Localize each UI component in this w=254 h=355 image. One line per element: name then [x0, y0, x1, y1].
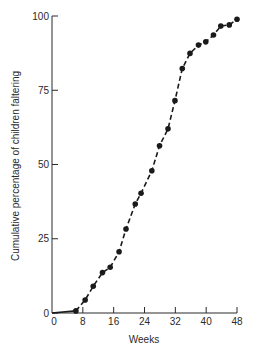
data-point-marker [234, 16, 240, 22]
x-tick-label: 0 [51, 316, 57, 327]
data-point-marker [132, 201, 138, 207]
data-point-marker [226, 22, 232, 28]
axes [52, 16, 237, 313]
series-dashed-line [76, 19, 237, 311]
data-point-marker [211, 32, 217, 38]
data-point-marker [157, 143, 163, 149]
data-point-marker [116, 249, 122, 255]
data-point-marker [196, 42, 202, 48]
data-point-marker [218, 23, 224, 29]
y-tick-label: 0 [43, 308, 49, 319]
x-tick-label: 40 [201, 316, 213, 327]
y-tick-label: 75 [38, 85, 50, 96]
data-point-marker [123, 226, 129, 232]
x-tick-label: 16 [108, 316, 120, 327]
data-point-marker [179, 66, 185, 72]
axis-ticks: 0255075100081624324048 [32, 11, 243, 328]
y-tick-label: 50 [38, 159, 50, 170]
y-axis-title: Cumulative percentage of children falter… [10, 71, 21, 261]
y-tick-label: 25 [38, 233, 50, 244]
data-point-marker [82, 297, 88, 303]
data-point-marker [165, 126, 171, 132]
data-point-marker [172, 98, 178, 104]
data-point-marker [187, 51, 193, 57]
x-tick-label: 8 [80, 316, 86, 327]
x-axis-title: Weeks [129, 334, 159, 345]
chart: 0255075100081624324048 Weeks Cumulative … [0, 0, 254, 355]
data-point-marker [73, 308, 79, 314]
x-tick-label: 48 [231, 316, 243, 327]
data-point-marker [100, 270, 106, 276]
data-point-marker [107, 264, 113, 270]
data-point-marker [90, 283, 96, 289]
data-series [52, 16, 240, 313]
x-tick-label: 32 [170, 316, 182, 327]
data-point-marker [149, 168, 155, 174]
y-tick-label: 100 [32, 11, 49, 22]
data-point-marker [203, 39, 209, 45]
x-tick-label: 24 [139, 316, 151, 327]
data-point-marker [138, 191, 144, 197]
